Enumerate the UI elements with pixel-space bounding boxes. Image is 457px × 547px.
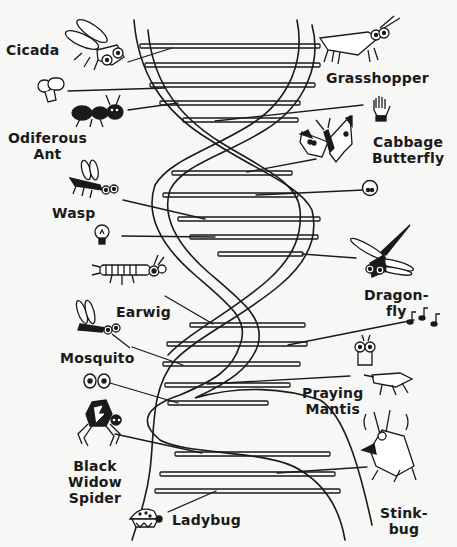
label-stinkbug: Stink- bug <box>380 505 428 537</box>
ladybug-icon <box>130 509 162 527</box>
label-odiferous-ant: Odiferous Ant <box>8 130 87 162</box>
tooth-icon <box>38 78 64 102</box>
face-eyes-icon <box>363 181 378 196</box>
label-cicada: Cicada <box>6 42 60 58</box>
label-mosquito: Mosquito <box>60 350 135 366</box>
praying-mantis-icon <box>355 335 412 395</box>
label-praying-mantis: Praying Mantis <box>302 385 364 417</box>
label-ladybug: Ladybug <box>172 512 241 528</box>
earwig-icon <box>92 255 166 285</box>
butterfly-icon <box>300 116 352 162</box>
dna-strand-left <box>132 20 314 540</box>
glove-hand-icon <box>374 96 390 121</box>
label-dragonfly: Dragon- fly <box>364 287 429 319</box>
spider-icon <box>78 400 121 446</box>
ant-icon <box>72 95 123 127</box>
dna-insect-diagram: Cicada Grasshopper Odiferous Ant Cabbage… <box>0 0 457 547</box>
label-cabbage-butterfly: Cabbage Butterfly <box>372 134 444 166</box>
label-black-widow-spider: Black Widow Spider <box>68 458 122 506</box>
label-grasshopper: Grasshopper <box>326 70 429 86</box>
cicada-icon <box>63 16 124 70</box>
label-wasp: Wasp <box>52 205 96 221</box>
label-earwig: Earwig <box>116 304 171 320</box>
eyes-icon <box>84 374 110 388</box>
dna-strand-right <box>147 20 372 540</box>
light-bulb-icon <box>95 225 109 244</box>
grasshopper-icon <box>320 16 400 64</box>
stinkbug-icon <box>362 410 416 482</box>
wasp-icon <box>70 159 118 198</box>
dragonfly-icon <box>349 225 415 277</box>
